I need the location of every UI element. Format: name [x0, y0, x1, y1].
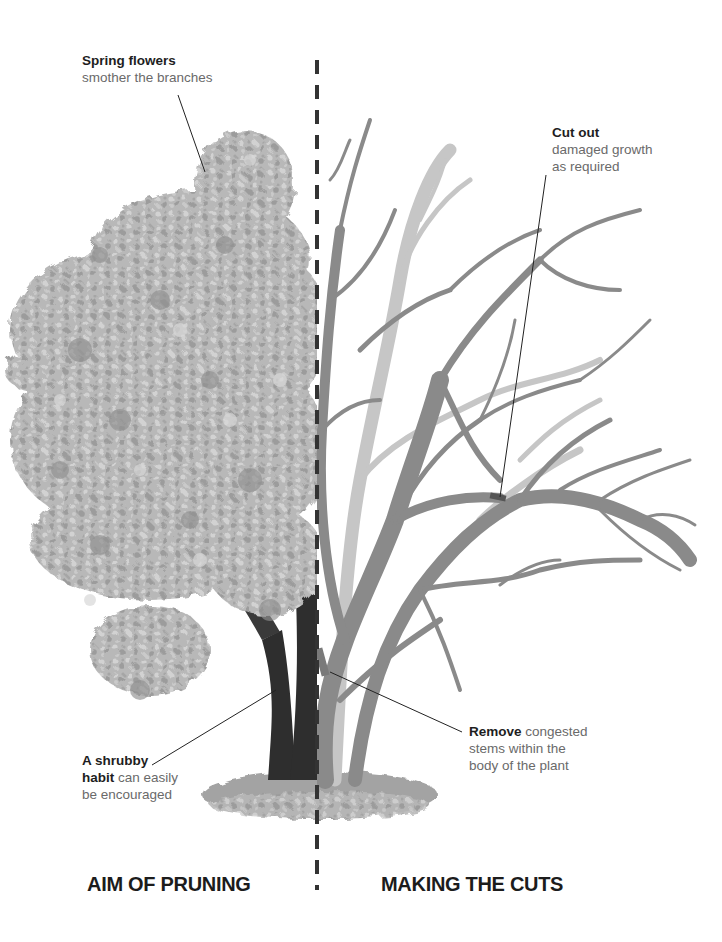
annotation-remove-line3: body of the plant [469, 757, 588, 774]
bare-branches [315, 120, 695, 780]
annotation-cut-out-title: Cut out [552, 124, 653, 141]
annotation-spring-flowers-text: smother the branches [82, 69, 213, 86]
annotation-shrubby-habit-text1: can easily [114, 770, 178, 785]
annotation-cut-out: Cut out damaged growth as required [552, 124, 653, 175]
annotation-remove-line2: stems within the [469, 740, 588, 757]
heading-aim-of-pruning: AIM OF PRUNING [87, 873, 251, 896]
heading-making-the-cuts: MAKING THE CUTS [381, 873, 563, 896]
annotation-remove-text1: congested [522, 724, 588, 739]
annotation-remove: Remove congested stems within the body o… [469, 723, 588, 774]
annotation-shrubby-habit-text2: be encouraged [82, 786, 178, 803]
blossom-canopy [5, 130, 330, 780]
annotation-spring-flowers: Spring flowers smother the branches [82, 52, 213, 86]
annotation-shrubby-habit: A shrubby habit can easily be encouraged [82, 752, 178, 803]
annotation-remove-title: Remove [469, 724, 522, 739]
annotation-shrubby-habit-title: A shrubby [82, 753, 148, 768]
annotation-shrubby-habit-title2: habit [82, 770, 114, 785]
annotation-spring-flowers-title: Spring flowers [82, 52, 213, 69]
annotation-cut-out-line1: damaged growth [552, 141, 653, 158]
annotation-cut-out-line2: as required [552, 158, 653, 175]
